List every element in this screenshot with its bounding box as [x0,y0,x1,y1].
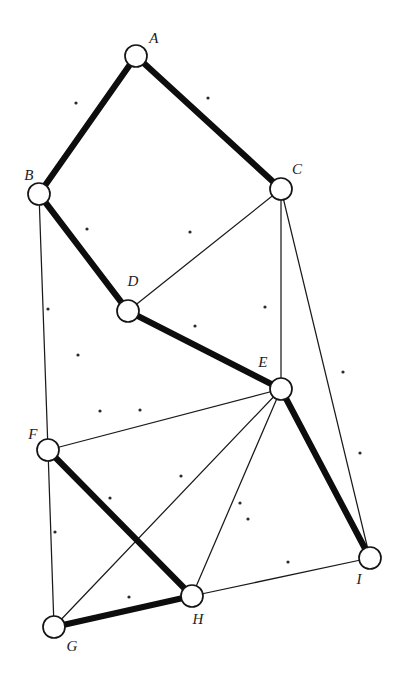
speck-mark [358,451,361,454]
speck-mark [53,530,56,533]
vertex-h[interactable] [181,585,203,607]
vertex-i[interactable] [359,547,381,569]
speck-mark [206,96,209,99]
speck-mark [341,370,344,373]
edge-b-f [39,194,48,450]
vertex-b[interactable] [28,183,50,205]
vertex-label-g: G [66,639,77,654]
vertex-label-e: E [258,355,267,370]
edge-f-h [48,450,192,596]
edge-c-d [128,189,281,311]
vertex-a[interactable] [125,45,147,67]
edge-b-d [39,194,128,311]
speck-mark [46,307,49,310]
vertex-label-f: F [28,427,37,442]
vertex-label-h: H [192,612,203,627]
speck-mark [74,101,77,104]
speck-mark [188,230,191,233]
graph-canvas [0,0,405,684]
edge-c-i [281,189,370,558]
vertex-label-a: A [149,31,158,46]
graph-figure: ABCDEFGHI [0,0,405,684]
speck-mark [138,408,141,411]
edge-a-b [39,56,136,194]
speck-mark [127,595,130,598]
vertex-label-d: D [127,274,138,289]
speck-mark [238,501,241,504]
edge-e-f [48,389,281,450]
vertex-label-c: C [292,162,302,177]
vertex-label-i: I [356,572,361,587]
edge-a-c [136,56,281,189]
edge-f-g [48,450,54,627]
edge-d-e [128,311,281,389]
speck-mark [76,353,79,356]
speck-mark [179,474,182,477]
vertex-f[interactable] [37,439,59,461]
speck-mark [193,324,196,327]
edge-e-i [281,389,370,558]
speck-mark [98,409,101,412]
speck-mark [246,517,249,520]
vertex-d[interactable] [117,300,139,322]
vertex-e[interactable] [270,378,292,400]
vertex-label-b: B [24,168,33,183]
speck-mark [286,560,289,563]
thick-edge-group [39,56,370,627]
speck-mark [108,496,111,499]
edge-h-i [192,558,370,596]
edge-e-g [54,389,281,627]
vertex-c[interactable] [270,178,292,200]
edge-e-h [192,389,281,596]
speck-mark [85,227,88,230]
vertex-g[interactable] [43,616,65,638]
edge-g-h [54,596,192,627]
speck-mark [263,305,266,308]
